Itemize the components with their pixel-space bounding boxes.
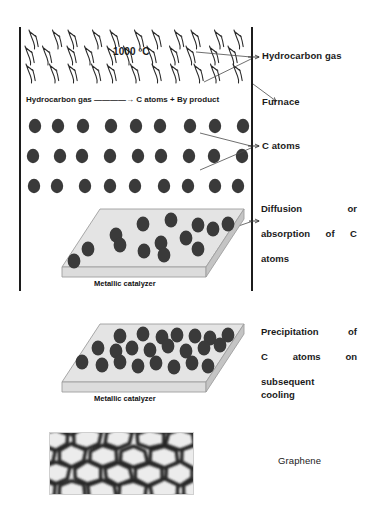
carbon-atom: [192, 242, 205, 257]
label-precipitation-line-2: C atoms on: [261, 351, 357, 376]
carbon-atom: [214, 338, 227, 353]
carbon-atom: [114, 238, 127, 253]
label-precipitation-line-1: Precipitation of: [261, 326, 357, 351]
label-diffusion-line-3: atoms: [261, 253, 357, 266]
label-diffusion-absorption: Diffusion or absorption of C atoms: [261, 203, 357, 266]
carbon-atom: [171, 328, 184, 343]
label-furnace: Furnace: [262, 96, 300, 108]
label-precipitation: Precipitation of C atoms on subsequent c…: [261, 326, 357, 401]
slab-upper-caption: Metallic catalyzer: [94, 279, 156, 288]
carbon-atom: [114, 355, 127, 370]
label-precipitation-line-4: cooling: [261, 389, 357, 402]
carbon-atom: [165, 213, 178, 228]
catalyst-slab-upper: Metallic catalyzer: [58, 203, 248, 297]
carbon-atom: [150, 356, 163, 371]
carbon-atom: [96, 358, 109, 373]
carbon-atom: [180, 231, 193, 246]
cvd-graphene-diagram: 1000 ºC Hydrocarbon gas ————→ C atoms + …: [0, 0, 365, 523]
slab-lower-caption: Metallic catalyzer: [94, 394, 156, 403]
carbon-atom: [222, 217, 235, 232]
carbon-atom: [192, 218, 205, 233]
carbon-atom: [126, 341, 139, 356]
label-diffusion-line-1: Diffusion or: [261, 203, 357, 228]
carbon-atom: [82, 242, 95, 257]
carbon-atom: [144, 343, 157, 358]
label-precipitation-line-3: subsequent: [261, 376, 357, 389]
catalyst-slab-lower: Metallic catalyzer: [58, 318, 248, 412]
label-c-atoms: C atoms: [262, 140, 300, 152]
carbon-atom: [114, 329, 127, 344]
carbon-atom: [198, 341, 211, 356]
carbon-atom: [202, 359, 215, 374]
carbon-atom: [137, 327, 150, 342]
carbon-atom: [132, 359, 145, 374]
label-graphene: Graphene: [278, 455, 321, 467]
carbon-atom: [137, 217, 150, 232]
carbon-atom: [189, 329, 202, 344]
carbon-atom: [186, 356, 199, 371]
graphene-lattice-image: [49, 432, 194, 495]
carbon-atom: [207, 222, 220, 237]
carbon-atom: [138, 244, 151, 259]
carbon-atom: [168, 360, 181, 375]
label-hydrocarbon-gas: Hydrocarbon gas: [262, 50, 342, 62]
carbon-atom: [68, 254, 81, 269]
label-diffusion-line-2: absorption of C: [261, 228, 357, 253]
carbon-atom: [92, 341, 105, 356]
carbon-atom: [162, 339, 175, 354]
carbon-atom: [76, 355, 89, 370]
carbon-atom: [158, 248, 171, 263]
